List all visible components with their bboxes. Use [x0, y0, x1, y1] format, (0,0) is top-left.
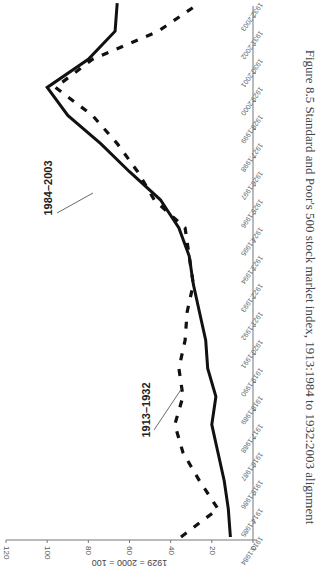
- value-tick-label: 60: [125, 546, 134, 555]
- value-tick-label: 40: [167, 546, 176, 555]
- category-tick-label: 1925:1996: [240, 198, 265, 229]
- value-axis-title: 1929 = 2000 = 100: [92, 558, 168, 568]
- category-tick-label: 1930:2001: [240, 58, 265, 89]
- category-tick-label: 1932:2003: [240, 1, 265, 32]
- series-line-1984-2003: [47, 3, 230, 537]
- category-tick-label: 1918:1989: [240, 395, 265, 426]
- category-tick-label: 1920:1991: [240, 339, 265, 370]
- figure-caption: Figure 8.5 Standard and Poor's 500 stock…: [302, 7, 318, 567]
- category-tick-label: 1917:1988: [240, 423, 265, 454]
- chart: 0204060801001201929 = 2000 = 1001913:198…: [0, 0, 323, 575]
- category-tick-label: 1926:1997: [240, 170, 265, 201]
- label-leader-1984-2003: [57, 193, 93, 213]
- category-tick-label: 1924:1995: [240, 226, 265, 257]
- label-leader-1913-1932: [154, 388, 182, 430]
- value-tick-label: 100: [43, 546, 52, 560]
- series-line-1913-1932: [55, 3, 218, 537]
- category-tick-label: 1929:2000: [240, 86, 265, 117]
- category-tick-label: 1916:1987: [240, 451, 265, 482]
- series-label-1913-1932: 1913–1932: [140, 382, 152, 437]
- value-tick-label: 80: [84, 546, 93, 555]
- category-tick-label: 1931:2002: [240, 30, 265, 61]
- series-lines: [47, 3, 230, 537]
- category-tick-label: 1923:1994: [240, 254, 265, 285]
- category-tick-label: 1914:1985: [240, 507, 265, 538]
- value-tick-label: 20: [208, 546, 217, 555]
- category-tick-label: 1919:1990: [240, 367, 265, 398]
- category-tick-label: 1921:1992: [240, 311, 265, 342]
- category-tick-label: 1928:1999: [240, 114, 265, 145]
- category-tick-label: 1922:1993: [240, 282, 265, 313]
- category-tick-label: 1927:1998: [240, 142, 265, 173]
- category-tick-label: 1915:1986: [240, 479, 265, 510]
- value-tick-label: 120: [2, 546, 11, 560]
- series-label-1984-2003: 1984–2003: [42, 160, 54, 215]
